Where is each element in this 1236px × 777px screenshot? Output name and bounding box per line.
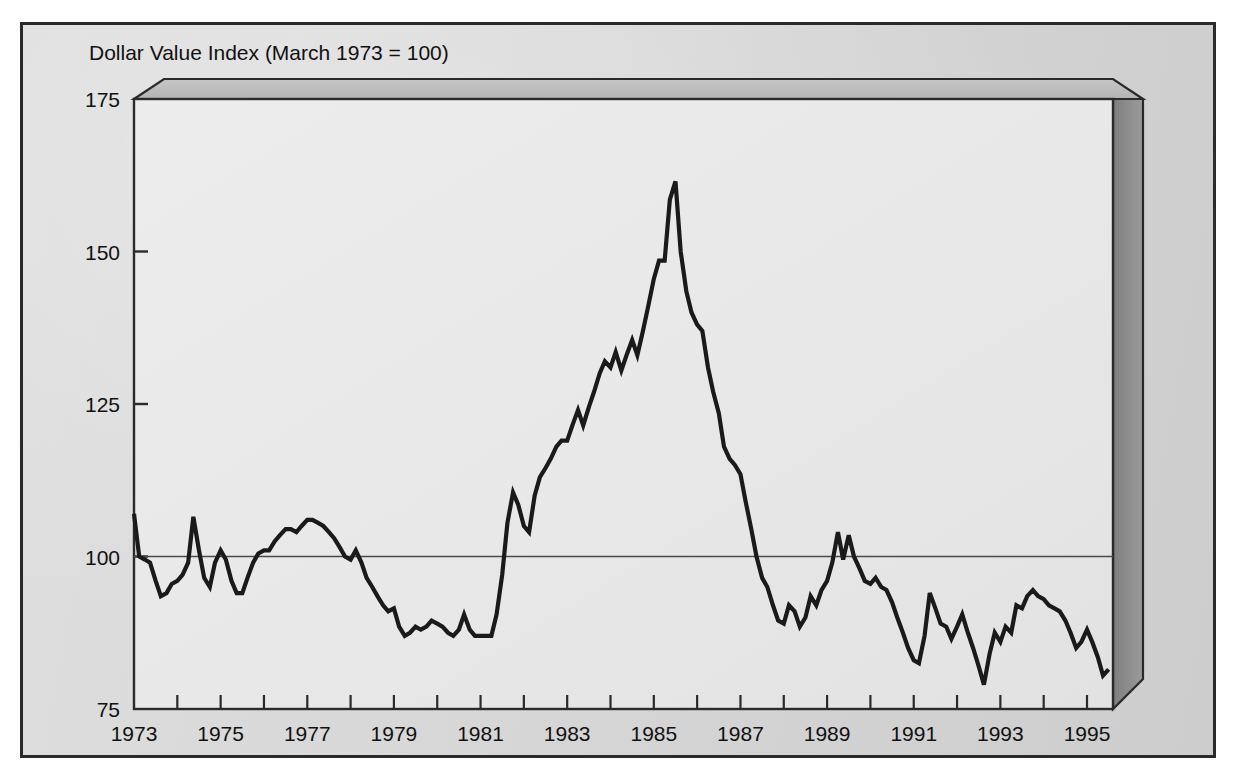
chart-box-top-face [134, 79, 1143, 99]
x-axis-tick-label: 1977 [284, 722, 331, 745]
chart-box-side-face [1113, 99, 1143, 709]
chart-title: Dollar Value Index (March 1973 = 100) [89, 41, 449, 64]
y-axis-tick-label: 75 [97, 698, 120, 721]
x-axis-tick-label: 1975 [197, 722, 244, 745]
x-axis-tick-label: 1991 [890, 722, 937, 745]
y-axis-tick-labels: 75100125150175 [85, 88, 120, 721]
x-axis-tick-label: 1979 [371, 722, 418, 745]
y-axis-tick-label: 100 [85, 546, 120, 569]
line-chart-svg: 75100125150175 1973197519771979198119831… [23, 25, 1213, 755]
x-axis-tick-label: 1983 [544, 722, 591, 745]
x-axis-tick-label: 1995 [1064, 722, 1111, 745]
x-axis-tick-labels: 1973197519771979198119831985198719891991… [111, 722, 1111, 745]
x-axis-tick-label: 1981 [457, 722, 504, 745]
x-axis-tick-label: 1987 [717, 722, 764, 745]
y-axis-tick-label: 150 [85, 241, 120, 264]
chart-panel: 75100125150175 1973197519771979198119831… [20, 22, 1216, 758]
plot-area [134, 99, 1113, 709]
y-axis-tick-label: 125 [85, 393, 120, 416]
x-axis-tick-label: 1993 [977, 722, 1024, 745]
x-axis-tick-label: 1973 [111, 722, 158, 745]
x-axis-tick-label: 1985 [630, 722, 677, 745]
x-axis-tick-label: 1989 [804, 722, 851, 745]
y-axis-tick-label: 175 [85, 88, 120, 111]
chart-figure: 75100125150175 1973197519771979198119831… [0, 0, 1236, 777]
